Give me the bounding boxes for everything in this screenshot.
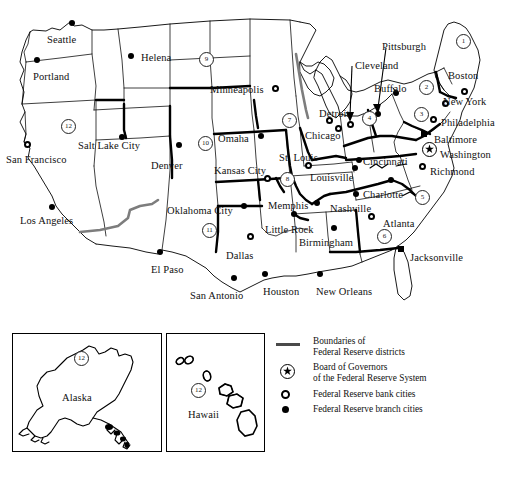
city-label-denver: Denver xyxy=(151,161,183,172)
city-label-seattle: Seattle xyxy=(47,35,76,46)
city-marker-houston xyxy=(262,271,268,277)
city-label-louisville: Louisville xyxy=(310,173,354,184)
legend-board-of-governors-icon xyxy=(280,364,295,379)
pittsburgh-leader xyxy=(378,48,386,108)
district-number-7: 7 xyxy=(282,113,297,128)
district-number-4: 4 xyxy=(362,111,377,126)
city-marker-cleveland xyxy=(347,121,354,128)
district-number-12: 12 xyxy=(61,119,76,134)
city-label-atlanta: Atlanta xyxy=(383,219,415,230)
city-label-omaha: Omaha xyxy=(218,134,249,145)
city-marker-nashville xyxy=(353,191,359,197)
inset-label-hawaii: Hawaii xyxy=(188,410,219,421)
city-marker-minneapolis xyxy=(272,85,279,92)
inset-district-number-hawaii: 12 xyxy=(191,383,206,398)
city-marker-omaha xyxy=(258,133,264,139)
city-label-birmingham: Birmingham xyxy=(299,238,353,249)
city-marker-san-antonio xyxy=(231,275,237,281)
city-marker-helena xyxy=(128,53,134,59)
legend-bank-city-icon xyxy=(281,390,290,399)
city-label-los-angeles: Los Angeles xyxy=(20,216,73,227)
district-number-11: 11 xyxy=(202,223,217,238)
city-marker-birmingham xyxy=(331,225,337,231)
city-marker-seattle xyxy=(69,20,75,26)
inset-district-number-alaska: 12 xyxy=(74,351,89,366)
legend-item-0-line1: Boundaries of xyxy=(313,336,365,347)
district-number-8: 8 xyxy=(280,172,295,187)
city-marker-el-paso xyxy=(157,249,163,255)
city-label-el-paso: El Paso xyxy=(151,265,184,276)
city-label-salt-lake-city: Salt Lake City xyxy=(78,141,140,152)
city-marker-portland xyxy=(34,57,40,63)
inset-label-alaska: Alaska xyxy=(62,393,92,404)
city-label-jacksonville: Jacksonville xyxy=(410,253,463,264)
city-marker-little-rock xyxy=(291,211,297,217)
city-label-minneapolis: Minneapolis xyxy=(210,85,264,96)
city-label-oklahoma-city: Oklahoma City xyxy=(167,206,233,217)
city-label-philadelphia: Philadelphia xyxy=(441,118,495,129)
legend-item-3-line1: Federal Reserve branch cities xyxy=(313,404,423,415)
legend-item-1-line2: of the Federal Reserve System xyxy=(313,373,427,384)
city-label-san-antonio: San Antonio xyxy=(190,291,243,302)
city-marker-new-orleans xyxy=(317,271,323,277)
legend-item-0-line2: Federal Reserve districts xyxy=(313,347,405,358)
city-label-cincinnati: Cincinnati xyxy=(363,157,408,168)
city-label-st-louis: St. Louis xyxy=(279,153,318,164)
district-number-3: 3 xyxy=(414,107,429,122)
city-label-baltimore: Baltimore xyxy=(434,135,477,146)
city-marker-charlotte xyxy=(388,177,394,183)
legend-branch-city-icon xyxy=(282,406,289,413)
city-label-kansas-city: Kansas City xyxy=(214,166,266,177)
federal-reserve-map: SeattlePortlandHelenaMinneapolisSan Fran… xyxy=(0,0,509,478)
city-label-detroit: Detroit xyxy=(319,109,349,120)
city-label-new-orleans: New Orleans xyxy=(316,287,372,298)
city-label-boston: Boston xyxy=(448,71,478,82)
district-number-10: 10 xyxy=(198,136,213,151)
city-label-washington: Washington xyxy=(440,150,491,161)
hawaii-shape xyxy=(167,334,264,451)
district-number-2: 2 xyxy=(419,80,434,95)
city-label-dallas: Dallas xyxy=(226,251,253,262)
city-label-buffalo: Buffalo xyxy=(374,84,407,95)
city-label-houston: Houston xyxy=(263,287,299,298)
city-marker-oklahoma-city xyxy=(241,203,247,209)
city-label-portland: Portland xyxy=(33,72,69,83)
city-marker-philadelphia xyxy=(430,116,437,123)
city-label-pittsburgh: Pittsburgh xyxy=(382,42,426,53)
city-label-cleveland: Cleveland xyxy=(355,61,398,72)
city-marker-baltimore xyxy=(421,131,427,137)
map-legend: Boundaries of Federal Reserve districts … xyxy=(276,334,506,430)
city-label-memphis: Memphis xyxy=(268,201,308,212)
city-marker-cincinnati xyxy=(356,157,362,163)
city-marker-denver xyxy=(176,142,182,148)
city-marker-san-francisco xyxy=(24,141,31,148)
city-label-new-york: New York xyxy=(443,97,486,108)
city-label-charlotte: Charlotte xyxy=(363,190,403,201)
legend-boundary-line-icon xyxy=(276,343,300,346)
city-label-chicago: Chicago xyxy=(305,131,341,142)
district-number-5: 5 xyxy=(415,190,430,205)
legend-item-2-line1: Federal Reserve bank cities xyxy=(313,389,415,400)
city-marker-louisville xyxy=(352,165,358,171)
district-number-9: 9 xyxy=(199,52,214,67)
city-marker-jacksonville xyxy=(398,246,404,252)
city-marker-richmond xyxy=(419,163,426,170)
city-marker-dallas xyxy=(247,233,254,240)
city-marker-los-angeles xyxy=(49,204,55,210)
city-marker-boston xyxy=(461,88,468,95)
city-marker-memphis xyxy=(314,200,320,206)
district-number-6: 6 xyxy=(377,229,392,244)
city-label-little-rock: Little Rock xyxy=(265,225,314,236)
city-label-san-francisco: San Francisco xyxy=(6,155,67,166)
city-label-nashville: Nashville xyxy=(330,204,371,215)
inset-hawaii xyxy=(166,333,265,452)
legend-item-1-line1: Board of Governors xyxy=(313,362,387,373)
city-label-helena: Helena xyxy=(141,53,171,64)
city-label-richmond: Richmond xyxy=(430,167,475,178)
district-number-1: 1 xyxy=(456,34,471,49)
